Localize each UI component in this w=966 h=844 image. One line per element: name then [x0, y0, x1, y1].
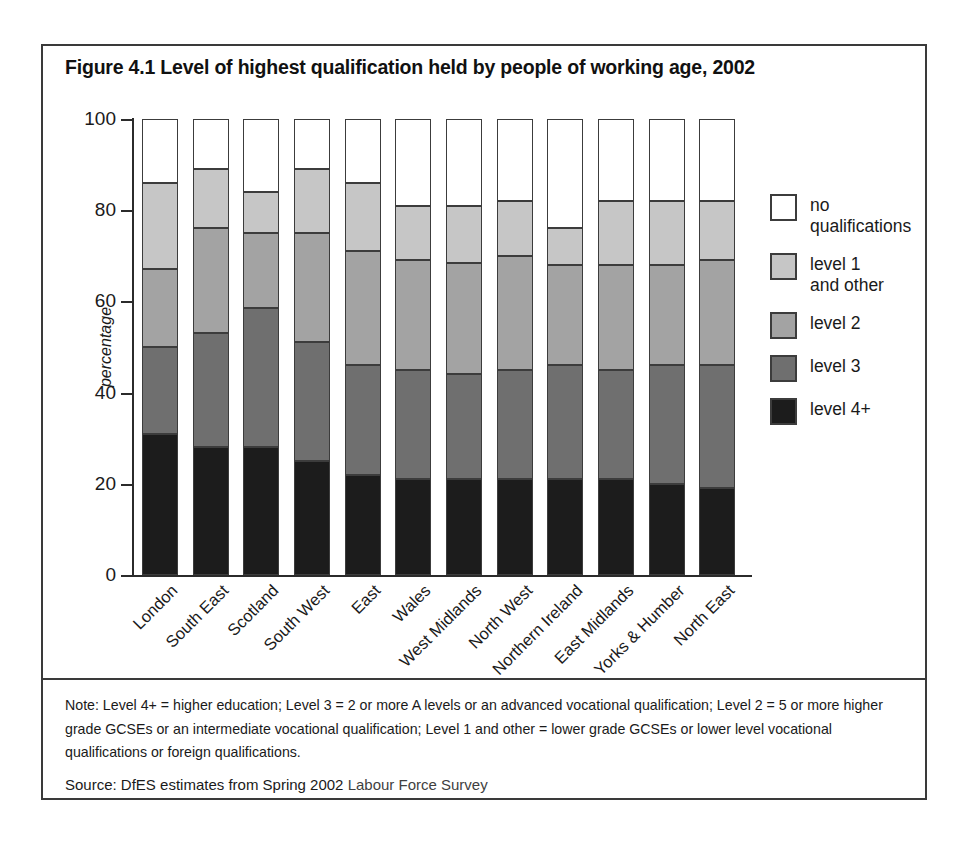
- bar-segment-noq: [142, 119, 178, 183]
- bar-north-west: [497, 119, 533, 575]
- x-axis-label-text: Wales: [389, 581, 434, 626]
- y-tick: 80: [121, 210, 132, 212]
- y-tick-label: 0: [105, 564, 116, 586]
- bar-segment-l3: [699, 365, 735, 488]
- bar-segment-l4: [699, 488, 735, 575]
- legend-item-noq[interactable]: noqualifications: [770, 194, 920, 237]
- bar-segment-noq: [699, 119, 735, 201]
- y-tick: 40: [121, 393, 132, 395]
- bar-segment-l1: [345, 183, 381, 251]
- bar-segment-l3: [345, 365, 381, 474]
- y-tick: 60: [121, 301, 132, 303]
- bar-segment-l1: [497, 201, 533, 256]
- bar-segment-noq: [395, 119, 431, 206]
- bar-segment-l2: [446, 263, 482, 375]
- bar-segment-l3: [497, 370, 533, 479]
- bar-segment-l2: [142, 269, 178, 347]
- y-tick-label: 20: [95, 473, 116, 495]
- bar-segment-l4: [294, 461, 330, 575]
- x-axis-label: East: [347, 581, 384, 618]
- y-axis-title: percentage: [97, 307, 115, 387]
- bar-segment-l2: [699, 260, 735, 365]
- bar-segment-l2: [243, 233, 279, 308]
- bar-segment-l2: [547, 265, 583, 365]
- x-axis-label-text: East: [347, 581, 384, 618]
- legend-swatch-l1: [770, 253, 797, 280]
- bar-segment-l3: [547, 365, 583, 479]
- bar-segment-l4: [142, 434, 178, 575]
- bar-segment-l4: [497, 479, 533, 575]
- bar-south-west: [294, 119, 330, 575]
- bar-segment-l2: [395, 260, 431, 369]
- bar-segment-l4: [547, 479, 583, 575]
- bar-segment-l1: [598, 201, 634, 265]
- y-tick-label: 80: [95, 199, 116, 221]
- bar-segment-l4: [598, 479, 634, 575]
- bar-segment-l2: [497, 256, 533, 370]
- y-tick: 20: [121, 484, 132, 486]
- bar-segment-noq: [598, 119, 634, 201]
- bar-segment-noq: [547, 119, 583, 228]
- bar-segment-noq: [243, 119, 279, 192]
- bar-segment-l1: [243, 192, 279, 233]
- bar-northern-ireland: [547, 119, 583, 575]
- legend-swatch-l2: [770, 312, 797, 339]
- bar-segment-l1: [649, 201, 685, 265]
- x-axis-label-text: Yorks & Humber: [590, 581, 688, 679]
- bar-segment-noq: [294, 119, 330, 169]
- bar-segment-l1: [699, 201, 735, 260]
- bar-segment-l2: [598, 265, 634, 370]
- legend-label: level 4+: [810, 398, 871, 420]
- y-tick: 100: [121, 119, 132, 121]
- legend-label: level 3: [810, 355, 861, 377]
- x-axis-label: Wales: [389, 581, 434, 626]
- bar-segment-l1: [142, 183, 178, 270]
- figure-note: Note: Level 4+ = higher education; Level…: [65, 694, 905, 765]
- bar-segment-l4: [446, 479, 482, 575]
- bar-east: [345, 119, 381, 575]
- bar-segment-l1: [446, 206, 482, 263]
- bar-segment-noq: [649, 119, 685, 201]
- bar-scotland: [243, 119, 279, 575]
- bar-west-midlands: [446, 119, 482, 575]
- figure-source: Source: DfES estimates from Spring 2002 …: [65, 776, 488, 793]
- bar-segment-l1: [547, 228, 583, 264]
- bar-segment-noq: [345, 119, 381, 183]
- source-publication: Labour Force Survey: [348, 776, 488, 793]
- y-axis-line: [132, 118, 134, 576]
- bar-segment-l3: [243, 308, 279, 447]
- bar-segment-l3: [294, 342, 330, 461]
- bar-segment-l1: [395, 206, 431, 261]
- legend-item-l1[interactable]: level 1and other: [770, 253, 920, 296]
- bar-segment-l4: [243, 447, 279, 575]
- bar-segment-l4: [395, 479, 431, 575]
- bar-london: [142, 119, 178, 575]
- legend-swatch-noq: [770, 194, 797, 221]
- legend-label: level 2: [810, 312, 861, 334]
- figure-panel: Figure 4.1 Level of highest qualificatio…: [41, 44, 927, 800]
- legend-item-l3[interactable]: level 3: [770, 355, 920, 382]
- bar-east-midlands: [598, 119, 634, 575]
- figure-title: Figure 4.1 Level of highest qualificatio…: [65, 56, 755, 79]
- plot-area: percentage 020406080100 LondonSouth East…: [132, 119, 750, 575]
- legend-swatch-l4: [770, 398, 797, 425]
- bar-segment-l3: [193, 333, 229, 447]
- footer-divider: [43, 678, 925, 680]
- legend-item-l2[interactable]: level 2: [770, 312, 920, 339]
- x-axis-label-text: Northern Ireland: [489, 581, 587, 679]
- bar-segment-l3: [446, 374, 482, 479]
- legend-label: level 1and other: [810, 253, 884, 296]
- bar-segment-l4: [193, 447, 229, 575]
- bar-segment-l2: [193, 228, 229, 333]
- x-axis-label: Yorks & Humber: [590, 581, 688, 679]
- bar-segment-l3: [142, 347, 178, 434]
- bar-wales: [395, 119, 431, 575]
- bar-segment-l1: [294, 169, 330, 233]
- x-axis-line: [132, 575, 752, 577]
- legend-swatch-l3: [770, 355, 797, 382]
- legend-item-l4[interactable]: level 4+: [770, 398, 920, 425]
- y-tick-label: 40: [95, 382, 116, 404]
- bar-yorks-humber: [649, 119, 685, 575]
- bar-segment-l3: [649, 365, 685, 484]
- bar-segment-l1: [193, 169, 229, 228]
